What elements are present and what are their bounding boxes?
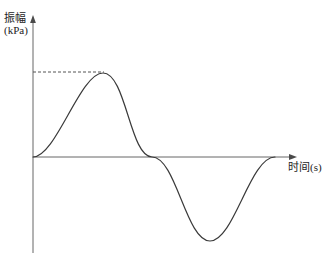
y-axis-label-name: 振幅 — [4, 12, 26, 24]
y-axis-label: 振幅 (kPa) — [4, 12, 28, 36]
x-axis-label: 时间(s) — [288, 161, 322, 173]
waveform-figure: 振幅 (kPa) 时间(s) — [0, 0, 331, 269]
y-axis-label-unit: (kPa) — [4, 24, 28, 36]
plot-canvas — [0, 0, 331, 269]
x-axis-arrowhead — [289, 154, 297, 160]
y-axis-arrowhead — [30, 15, 36, 23]
